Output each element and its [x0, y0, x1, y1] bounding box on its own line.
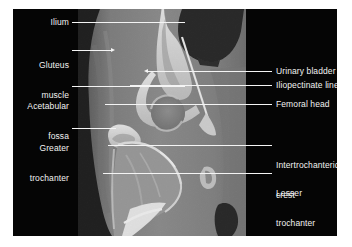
label-lesser-trochanter-line1: Lesser [276, 188, 337, 198]
leader-line-femoral-head [105, 104, 272, 105]
leader-line-urinary-bladder [148, 71, 272, 72]
label-greater-trochanter: Greater trochanter [13, 123, 69, 203]
label-greater-trochanter-line1: Greater [13, 143, 69, 153]
label-iliopectinate-line: Iliopectinate line [276, 80, 337, 90]
leader-line-lesser-trochanter [103, 173, 272, 174]
ct-slice-graphic [78, 9, 246, 236]
label-femoral-head: Femoral head [276, 99, 337, 109]
label-ilium: Ilium [13, 17, 69, 27]
label-urinary-bladder: Urinary bladder [276, 66, 337, 76]
label-gluteus-muscle-line1: Gluteus [13, 60, 69, 70]
leader-line-acetabular-fossa [72, 86, 185, 87]
leader-line-ilium [72, 22, 185, 23]
ct-figure: Ilium Gluteus muscle Acetabular fossa Gr… [0, 0, 352, 247]
leader-line-iliopectinate-line [130, 85, 272, 86]
leader-line-greater-trochanter [72, 128, 116, 129]
ct-image-plate: Ilium Gluteus muscle Acetabular fossa Gr… [13, 9, 337, 236]
arrowhead-gluteus-muscle [111, 48, 115, 52]
leader-line-gluteus-muscle [72, 50, 112, 51]
label-greater-trochanter-line2: trochanter [13, 173, 69, 183]
label-lesser-trochanter-line2: trochanter [276, 218, 337, 228]
ct-slice-image [78, 9, 246, 236]
label-lesser-trochanter: Lesser trochanter [276, 168, 337, 236]
leader-line-intertrochanteric-crest [108, 145, 272, 146]
label-acetabular-fossa-line1: Acetabular [13, 101, 69, 111]
